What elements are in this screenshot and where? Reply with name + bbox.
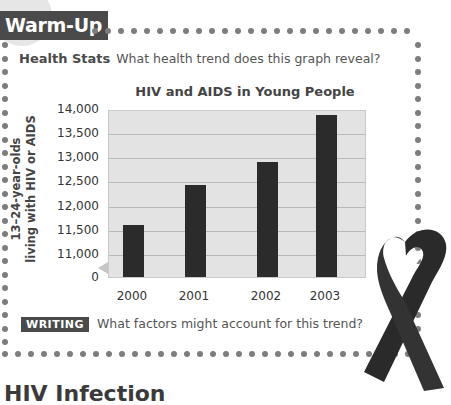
border-dot	[105, 28, 111, 34]
border-dot	[288, 351, 294, 357]
border-dot	[92, 28, 98, 34]
border-dot	[301, 351, 307, 357]
x-tick-label: 2002	[246, 289, 286, 303]
border-dot	[415, 96, 421, 102]
y-tick-label: 0	[0, 270, 99, 284]
border-dot	[2, 285, 8, 291]
border-dot	[119, 351, 125, 357]
border-dot	[145, 351, 151, 357]
border-dot	[106, 351, 112, 357]
border-dot	[365, 28, 371, 34]
y-tick-label: 14,000	[0, 102, 99, 116]
border-dot	[170, 28, 176, 34]
border-dot	[275, 351, 281, 357]
border-dot	[184, 351, 190, 357]
y-tick-label: 13,500	[0, 126, 99, 140]
border-dot	[235, 28, 241, 34]
writing-question: What factors might account for this tren…	[97, 316, 363, 331]
border-dot	[171, 351, 177, 357]
border-dot	[118, 28, 124, 34]
writing-badge: WRITING	[21, 317, 89, 332]
border-dot	[300, 28, 306, 34]
bar-2002	[257, 162, 278, 277]
border-dot	[80, 351, 86, 357]
border-dot	[314, 351, 320, 357]
prompt-lead: Health Stats	[19, 51, 110, 66]
border-dot	[2, 339, 8, 345]
x-tick-label: 2000	[112, 289, 152, 303]
border-dot	[222, 28, 228, 34]
border-dot	[132, 351, 138, 357]
axis-break-icon	[98, 262, 108, 274]
border-dot	[131, 28, 137, 34]
x-tick-label: 2003	[305, 289, 345, 303]
border-dot	[415, 150, 421, 156]
chart-title: HIV and AIDS in Young People	[130, 84, 360, 99]
border-dot	[158, 351, 164, 357]
border-dot	[415, 204, 421, 210]
border-dot	[415, 83, 421, 89]
border-dot	[415, 191, 421, 197]
y-tick-label: 11,500	[0, 223, 99, 237]
border-dot	[313, 28, 319, 34]
border-dot	[352, 28, 358, 34]
border-dot	[183, 28, 189, 34]
border-dot	[54, 351, 60, 357]
prompt: Health StatsWhat health trend does this …	[19, 51, 380, 66]
border-dot	[2, 42, 8, 48]
border-dot	[67, 351, 73, 357]
border-dot	[2, 164, 8, 170]
border-dot	[326, 28, 332, 34]
border-dot	[415, 177, 421, 183]
border-dot	[353, 351, 359, 357]
border-dot	[41, 351, 47, 357]
awareness-ribbon-icon	[360, 222, 451, 391]
border-dot	[339, 28, 345, 34]
border-dot	[287, 28, 293, 34]
border-dot	[236, 351, 242, 357]
border-dot	[340, 351, 346, 357]
border-dot	[415, 69, 421, 75]
border-dot	[2, 312, 8, 318]
y-tick-label: 12,500	[0, 174, 99, 188]
border-dot	[2, 351, 8, 357]
border-dot	[327, 351, 333, 357]
prompt-question: What health trend does this graph reveal…	[116, 51, 380, 66]
border-dot	[2, 69, 8, 75]
border-dot	[248, 28, 254, 34]
border-dot	[391, 28, 397, 34]
border-dot	[261, 28, 267, 34]
border-dot	[197, 351, 203, 357]
border-dot	[274, 28, 280, 34]
border-dot	[415, 42, 421, 48]
border-dot	[196, 28, 202, 34]
y-tick-label: 12,000	[0, 199, 99, 213]
x-tick-label: 2001	[174, 289, 214, 303]
border-dot	[2, 83, 8, 89]
border-dot	[404, 28, 410, 34]
border-dot	[2, 191, 8, 197]
border-dot	[415, 164, 421, 170]
plot-area	[108, 110, 366, 278]
border-dot	[210, 351, 216, 357]
border-dot	[415, 110, 421, 116]
y-tick-label: 11,000	[0, 247, 99, 261]
warm-up-tab: Warm-Up	[0, 11, 108, 40]
border-dot	[378, 28, 384, 34]
bar-2003	[316, 115, 337, 277]
border-dot	[415, 56, 421, 62]
border-dot	[144, 28, 150, 34]
border-dot	[28, 351, 34, 357]
border-dot	[209, 28, 215, 34]
border-dot	[249, 351, 255, 357]
border-dot	[2, 299, 8, 305]
border-dot	[2, 56, 8, 62]
border-dot	[262, 351, 268, 357]
bar-2001	[185, 185, 206, 277]
border-dot	[415, 123, 421, 129]
border-dot	[15, 351, 21, 357]
y-tick-label: 13,000	[0, 150, 99, 164]
border-dot	[415, 137, 421, 143]
border-dot	[223, 351, 229, 357]
section-heading: HIV Infection	[4, 381, 166, 405]
